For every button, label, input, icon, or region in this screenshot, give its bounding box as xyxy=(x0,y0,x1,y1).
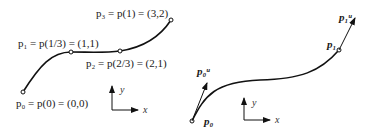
right-y-label: y xyxy=(252,97,256,108)
curve-svg xyxy=(0,0,371,137)
left-x-label: x xyxy=(143,104,147,115)
left-p1-point xyxy=(69,50,73,54)
hermite-curve-diagram: p₃ = p(1) = (3,2) p₁ = p(1/3) = (1,1) p₂… xyxy=(0,0,371,137)
label-p1u: p₁ᵘ xyxy=(339,12,352,23)
right-curve xyxy=(192,50,339,121)
right-x-label: x xyxy=(275,114,279,125)
label-p3: p₃ = p(1) = (3,2) xyxy=(96,8,168,19)
left-p2-point xyxy=(118,49,122,53)
label-p0: p₀ = p(0) = (0,0) xyxy=(16,98,88,109)
label-p2: p₂ = p(2/3) = (2,1) xyxy=(86,58,167,69)
left-p3-point xyxy=(169,18,173,22)
label-p0u: p₀ᵘ xyxy=(197,66,210,77)
label-p1: p₁ xyxy=(327,39,336,50)
label-p0: p₀ xyxy=(204,116,213,127)
label-p1: p₁ = p(1/3) = (1,1) xyxy=(18,38,99,49)
left-y-label: y xyxy=(120,84,124,95)
left-p0-point xyxy=(21,90,25,94)
left-curve xyxy=(23,20,171,92)
